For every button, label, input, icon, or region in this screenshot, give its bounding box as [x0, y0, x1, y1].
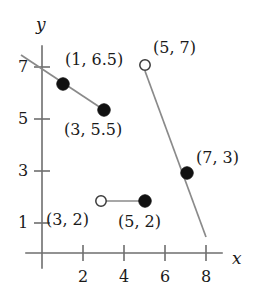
x-axis-label: x: [232, 250, 242, 267]
y-tick-label-5: 5: [18, 111, 28, 127]
point-label-1-6.5: (1, 6.5): [65, 52, 123, 68]
x-tick-label-4: 4: [119, 269, 129, 285]
y-tick-label-3: 3: [18, 163, 28, 179]
y-tick-label-1: 1: [18, 215, 28, 231]
point-label-7-3: (7, 3): [196, 150, 239, 166]
y-axis-label: y: [36, 16, 46, 33]
point-label-5-2: (5, 2): [118, 214, 161, 230]
x-tick-label-6: 6: [160, 269, 170, 285]
data-point-5-2: [139, 195, 151, 207]
data-point-1-6.5: [57, 78, 69, 90]
data-point-5-7: [140, 60, 150, 70]
graph-figure: y x 7 5 3 1 2 4 6 8 (1, 6.5) (5, 7) (3, …: [0, 0, 257, 306]
y-tick-label-7: 7: [18, 59, 28, 75]
data-point-3-2: [96, 196, 106, 206]
data-point-3-5.5: [98, 104, 110, 116]
point-label-3-5.5: (3, 5.5): [64, 122, 122, 138]
data-point-7-3: [181, 167, 193, 179]
point-label-3-2: (3, 2): [46, 212, 89, 228]
x-tick-label-2: 2: [78, 269, 88, 285]
x-tick-label-8: 8: [201, 269, 211, 285]
point-label-5-7: (5, 7): [153, 40, 196, 56]
